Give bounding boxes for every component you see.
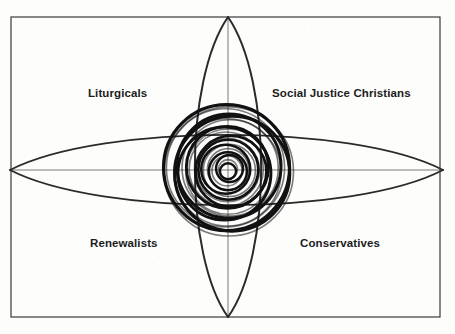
quadrant-label-top-right: Social Justice Christians <box>272 88 411 100</box>
diagram-frame <box>11 17 440 317</box>
quadrant-diagram-canvas <box>0 0 455 334</box>
quadrant-label-bottom-left: Renewalists <box>90 238 158 250</box>
vertical-vesica-arc-right <box>228 17 261 317</box>
quadrant-label-bottom-right: Conservatives <box>300 238 380 250</box>
diagram-page: Liturgicals Social Justice Christians Re… <box>0 0 455 334</box>
quadrant-label-top-left: Liturgicals <box>88 88 147 100</box>
